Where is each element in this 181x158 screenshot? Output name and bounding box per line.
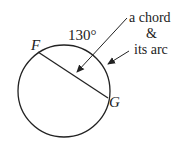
- angle-label: 130°: [68, 27, 97, 43]
- arc-arrow: [108, 51, 129, 64]
- annotation-line-2: &: [146, 26, 157, 41]
- point-f-label: F: [30, 37, 41, 53]
- annotation-line-3: its arc: [134, 42, 168, 57]
- circle-chord-diagram: 130° F G a chord & its arc: [0, 0, 181, 158]
- annotation-line-1: a chord: [129, 10, 171, 25]
- point-g-label: G: [109, 94, 120, 110]
